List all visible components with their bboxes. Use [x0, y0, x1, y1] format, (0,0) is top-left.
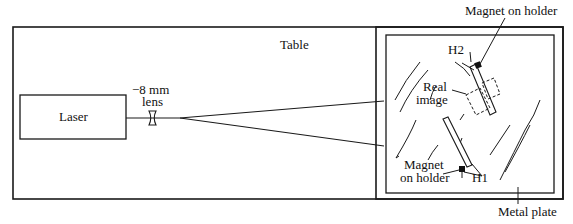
optics-setup-diagram: Table Laser −8 mm lens H2 Real image Mag… — [0, 0, 573, 224]
beam-lower — [180, 118, 384, 146]
magnet-h1-icon — [459, 166, 465, 172]
magnet-bottom-label-line2: on holder — [400, 171, 449, 185]
h1-label: H1 — [472, 171, 488, 185]
lens-label-line2: lens — [142, 95, 163, 109]
beam-upper — [180, 101, 384, 118]
magnet-top-label: Magnet on holder — [465, 4, 557, 18]
metal-plate-label: Metal plate — [498, 205, 557, 219]
laser-label: Laser — [59, 110, 88, 124]
real-image-pointer — [452, 90, 466, 94]
mirror-h1 — [443, 117, 482, 178]
magnet-top-pointer — [480, 18, 505, 64]
table-label: Table — [280, 38, 309, 52]
h2-label: H2 — [448, 43, 464, 57]
real-image-label-line2: image — [416, 93, 448, 107]
mirror-h2 — [455, 52, 496, 115]
plate-mark — [460, 114, 464, 120]
